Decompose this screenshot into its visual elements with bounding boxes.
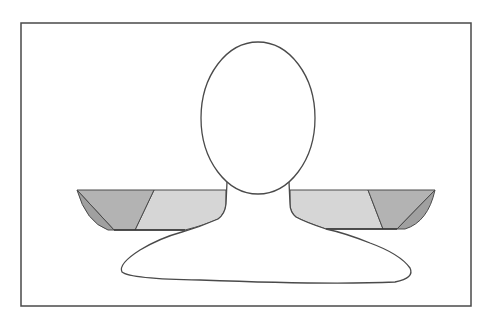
figure-diagram xyxy=(0,0,491,316)
right-shoulder xyxy=(290,190,435,229)
head xyxy=(201,42,315,194)
left-shoulder xyxy=(77,190,226,230)
